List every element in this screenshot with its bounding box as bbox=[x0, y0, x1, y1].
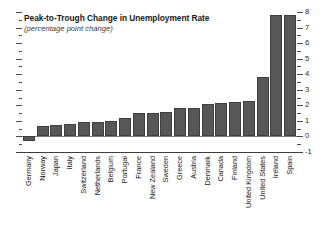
bar[interactable] bbox=[284, 15, 296, 136]
x-axis-category-label: Spain bbox=[286, 156, 293, 175]
x-label-slot: United States bbox=[256, 154, 270, 240]
y-tick-major bbox=[297, 105, 303, 106]
y-axis-tick-label: 1 bbox=[305, 117, 309, 125]
y-tick-major bbox=[16, 59, 22, 60]
bar[interactable] bbox=[119, 118, 131, 137]
y-tick-major bbox=[16, 90, 22, 91]
y-tick-major bbox=[297, 28, 303, 29]
bar-slot bbox=[147, 12, 159, 152]
y-tick-minor bbox=[297, 66, 301, 67]
y-tick-minor bbox=[297, 51, 301, 52]
bar-slot bbox=[64, 12, 76, 152]
x-axis-category-label: Italy bbox=[66, 156, 73, 169]
x-axis-category-label: Netherlands bbox=[94, 156, 101, 195]
bar-slot bbox=[160, 12, 172, 152]
y-axis-right-ticks: -1012345678 bbox=[297, 12, 307, 152]
x-label-slot: Switzerland bbox=[77, 154, 91, 240]
x-axis-category-labels: GermanyNorwayJapanItalySwitzerlandNether… bbox=[22, 154, 297, 240]
bar-slot bbox=[119, 12, 131, 152]
y-tick-minor bbox=[297, 113, 301, 114]
x-label-slot: Netherlands bbox=[91, 154, 105, 240]
bar[interactable] bbox=[78, 122, 90, 136]
x-axis-category-label: United Kingdom bbox=[245, 156, 252, 208]
bars-layer bbox=[22, 12, 297, 152]
bar[interactable] bbox=[37, 126, 49, 137]
y-tick-major bbox=[16, 136, 22, 137]
bar-slot bbox=[174, 12, 186, 152]
y-tick-major bbox=[16, 28, 22, 29]
x-axis-category-label: Finland bbox=[231, 156, 238, 180]
bar[interactable] bbox=[92, 122, 104, 137]
y-tick-minor bbox=[19, 144, 23, 145]
x-label-slot: Germany bbox=[22, 154, 36, 240]
x-axis-category-label: Denmark bbox=[204, 156, 211, 186]
bar[interactable] bbox=[270, 15, 282, 136]
x-axis-category-label: Switzerland bbox=[80, 156, 87, 194]
x-axis-category-label: Portugal bbox=[121, 156, 128, 183]
x-axis-category-label: France bbox=[135, 156, 142, 179]
x-label-slot: Finland bbox=[228, 154, 242, 240]
bar[interactable] bbox=[23, 136, 35, 141]
bar[interactable] bbox=[50, 125, 62, 137]
bar[interactable] bbox=[243, 101, 255, 137]
y-axis-tick-label: 7 bbox=[305, 24, 309, 32]
x-label-slot: Greece bbox=[173, 154, 187, 240]
x-label-slot: Austria bbox=[187, 154, 201, 240]
y-tick-major bbox=[16, 43, 22, 44]
bar-slot bbox=[188, 12, 200, 152]
y-tick-major bbox=[297, 136, 303, 137]
y-tick-major bbox=[16, 74, 22, 75]
bar[interactable] bbox=[133, 113, 145, 136]
y-tick-minor bbox=[19, 129, 23, 130]
bar[interactable] bbox=[147, 113, 159, 136]
bar-slot bbox=[284, 12, 296, 152]
bar-slot bbox=[257, 12, 269, 152]
y-tick-minor bbox=[297, 82, 301, 83]
y-axis-tick-label: 5 bbox=[305, 55, 309, 63]
y-axis-tick-label: -1 bbox=[305, 148, 312, 156]
bar-slot bbox=[243, 12, 255, 152]
bar-slot bbox=[23, 12, 35, 152]
y-tick-minor bbox=[19, 82, 23, 83]
x-label-slot: Belgium bbox=[105, 154, 119, 240]
y-tick-minor bbox=[19, 66, 23, 67]
y-axis-tick-label: 4 bbox=[305, 70, 309, 78]
x-axis-category-label: Greece bbox=[176, 156, 183, 180]
y-tick-minor bbox=[297, 129, 301, 130]
bar[interactable] bbox=[229, 102, 241, 136]
bar[interactable] bbox=[202, 104, 214, 137]
y-tick-minor bbox=[19, 35, 23, 36]
x-label-slot: Denmark bbox=[201, 154, 215, 240]
x-label-slot: Spain bbox=[283, 154, 297, 240]
bar[interactable] bbox=[188, 108, 200, 137]
bar-slot bbox=[133, 12, 145, 152]
x-axis-category-label: Belgium bbox=[108, 156, 115, 182]
bar[interactable] bbox=[105, 121, 117, 137]
bar[interactable] bbox=[160, 112, 172, 137]
y-tick-major bbox=[297, 59, 303, 60]
x-axis-category-label: Japan bbox=[53, 156, 60, 176]
bar[interactable] bbox=[64, 124, 76, 136]
x-label-slot: France bbox=[132, 154, 146, 240]
y-tick-major bbox=[297, 43, 303, 44]
x-axis-category-label: Germany bbox=[25, 156, 32, 186]
y-tick-minor bbox=[297, 98, 301, 99]
x-label-slot: Sweden bbox=[160, 154, 174, 240]
bar[interactable] bbox=[215, 103, 227, 136]
y-tick-minor bbox=[19, 51, 23, 52]
bar-slot bbox=[202, 12, 214, 152]
y-axis-left-ticks bbox=[12, 12, 22, 152]
bar-slot bbox=[92, 12, 104, 152]
bar-slot bbox=[50, 12, 62, 152]
x-label-slot: Canada bbox=[215, 154, 229, 240]
x-label-slot: Portugal bbox=[118, 154, 132, 240]
y-tick-minor bbox=[297, 20, 301, 21]
x-axis-line bbox=[16, 152, 303, 153]
x-axis-category-label: Canada bbox=[218, 156, 225, 182]
bar[interactable] bbox=[174, 108, 186, 136]
bar[interactable] bbox=[257, 77, 269, 136]
bar-slot bbox=[37, 12, 49, 152]
y-axis-tick-label: 8 bbox=[305, 8, 309, 16]
y-tick-major bbox=[16, 12, 22, 13]
y-tick-major bbox=[297, 74, 303, 75]
